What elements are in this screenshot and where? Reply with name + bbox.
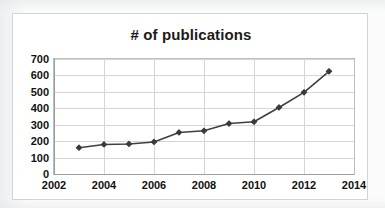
- y-axis-tick-label: 600: [9, 69, 49, 81]
- data-point-marker: [226, 121, 231, 126]
- x-axis-tick-label: 2014: [342, 179, 366, 191]
- y-axis-tick-label: 400: [9, 102, 49, 114]
- x-axis-tick-label: 2002: [42, 179, 66, 191]
- data-point-marker: [101, 142, 106, 147]
- y-axis-tick-label: 200: [9, 135, 49, 147]
- plot-area: 0100200300400500600700 20022004200620082…: [53, 58, 355, 175]
- x-axis-tick-label: 2004: [92, 179, 116, 191]
- data-point-marker: [151, 139, 156, 144]
- x-axis-tick-label: 2008: [192, 179, 216, 191]
- data-point-marker: [76, 145, 81, 150]
- chart-title: # of publications: [13, 26, 369, 43]
- data-point-marker: [176, 130, 181, 135]
- y-axis-tick-label: 100: [9, 152, 49, 164]
- x-axis-tick-label: 2012: [292, 179, 316, 191]
- x-axis-line: [54, 174, 354, 175]
- data-series-publications: [54, 59, 354, 174]
- x-axis-tick-label: 2006: [142, 179, 166, 191]
- page-background: # of publications 0100200300400500600700…: [0, 0, 385, 208]
- y-axis-tick-label: 700: [9, 53, 49, 65]
- data-point-marker: [126, 141, 131, 146]
- y-axis-tick-label: 500: [9, 86, 49, 98]
- chart-container: # of publications 0100200300400500600700…: [12, 13, 368, 200]
- series-line: [79, 71, 329, 147]
- y-axis-tick-label: 300: [9, 119, 49, 131]
- x-axis-tick-label: 2010: [242, 179, 266, 191]
- data-point-marker: [201, 128, 206, 133]
